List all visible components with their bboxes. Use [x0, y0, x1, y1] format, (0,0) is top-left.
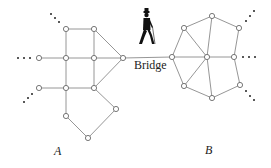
graph-b-edge [184, 57, 207, 86]
graph-a-edge [66, 116, 88, 138]
graph-a-node [91, 85, 96, 90]
graph-b-edge [212, 85, 240, 98]
graph-b-node [181, 25, 186, 30]
graph-b-edge [184, 86, 212, 98]
graph-a-node [63, 26, 68, 31]
graph-a-nodes [36, 26, 125, 140]
graph-b-node [231, 54, 236, 59]
graph-a-edge [94, 88, 116, 109]
graph-b-edge [172, 28, 184, 57]
graph-b-edge [207, 57, 212, 98]
bridge-label: Bridge [134, 58, 167, 73]
ellipsis-dots-b-top [245, 10, 255, 22]
ellipsis-dots-a-bottom [23, 93, 33, 103]
graph-b-edge [184, 16, 212, 28]
ellipsis-dots-b-bottom [245, 90, 255, 101]
graph-b-node [237, 82, 242, 87]
graph-a-edge [94, 58, 123, 88]
graph-a-node [120, 55, 125, 60]
ellipsis-dots-a-left [17, 57, 31, 59]
graph-b-edge [234, 57, 240, 85]
graph-b-node [209, 95, 214, 100]
graph-a-edge [88, 109, 116, 138]
graph-b-edge [207, 16, 212, 57]
graph-a-node [63, 55, 68, 60]
graph-b-node [209, 13, 214, 18]
graph-b-edge [234, 28, 239, 57]
graph-b-edge [212, 16, 239, 28]
graph-b-node [181, 83, 186, 88]
graph-a-node [63, 113, 68, 118]
ellipsis-dots-b-right [242, 56, 256, 58]
graph-a-edges [39, 29, 123, 138]
graph-a-node [36, 55, 41, 60]
person-walking-icon [139, 8, 155, 44]
graph-a-node [36, 85, 41, 90]
graph-b-edge [184, 28, 207, 57]
graph-a-node [63, 85, 68, 90]
graph-a-edge [94, 29, 123, 58]
graph-b-edge [172, 57, 184, 86]
graph-b-node [204, 54, 209, 59]
graph-a-node [91, 55, 96, 60]
graph-b-node [236, 25, 241, 30]
bridge-graph-diagram [0, 0, 271, 168]
graph-a-node [91, 26, 96, 31]
component-b-label: B [205, 143, 212, 158]
graph-a-node [113, 106, 118, 111]
graph-b-node [169, 54, 174, 59]
ellipsis-dots-a-top [50, 13, 60, 23]
graph-a-node [85, 135, 90, 140]
component-a-label: A [54, 144, 61, 159]
